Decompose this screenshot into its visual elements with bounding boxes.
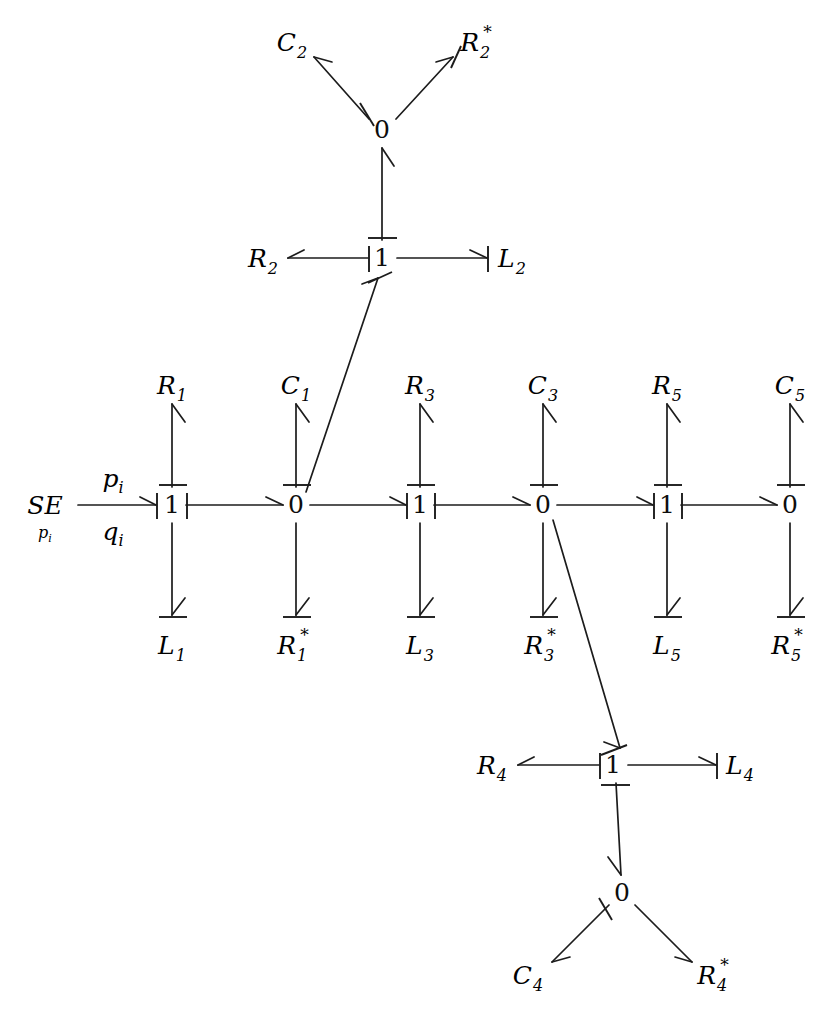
element-L3: L3 — [405, 631, 434, 665]
bond-one5-to-L5 — [654, 523, 682, 617]
element-L1: L1 — [157, 631, 186, 665]
bond-graph-canvas: 0 1 1 0 1 0 1 0 1 0 SE pi pi qi R1 C1 R3 — [0, 0, 821, 1025]
element-C5-text: C5 — [775, 371, 805, 405]
element-C1-text: C1 — [281, 371, 311, 405]
element-R4-star: R4* — [696, 955, 729, 995]
flow-label: qi — [102, 517, 123, 550]
bond-zero1-to-C1 — [283, 404, 311, 487]
element-C3: C3 — [528, 371, 558, 405]
bond-one2-to-R2 — [288, 246, 369, 272]
element-R4-text: R4 — [476, 751, 507, 785]
bond-label-flow: qi — [102, 517, 123, 550]
source-SE: SE pi — [27, 491, 62, 545]
bond-graph-diagram: 0 1 1 0 1 0 1 0 1 0 SE pi pi qi R1 C1 R3 — [0, 0, 821, 1025]
element-C2-text: C2 — [277, 28, 307, 62]
element-R3-text: R3 — [404, 371, 435, 405]
bond-one1-to-L1 — [159, 523, 187, 617]
junction-zero-3: 0 — [535, 490, 551, 519]
element-L4: L4 — [725, 751, 754, 785]
junction-zero-1: 0 — [288, 490, 304, 519]
element-R1-text: R1 — [156, 371, 187, 405]
junction-one-4: 1 — [605, 750, 621, 779]
element-R1-star: R1* — [276, 625, 309, 665]
element-R3: R3 — [404, 371, 435, 405]
bond-one5-to-R5 — [654, 404, 682, 487]
bond-one1-to-zero1 — [186, 493, 283, 519]
element-R5-star: R5* — [770, 625, 803, 665]
bond-one3-to-L3 — [407, 523, 435, 617]
element-C5: C5 — [775, 371, 805, 405]
element-R1star-text: R1* — [276, 625, 309, 665]
bond-one4-to-L4 — [628, 753, 717, 779]
bond-one2-to-L2 — [397, 246, 488, 272]
bond-label-effort: pi — [102, 464, 123, 497]
element-C3-text: C3 — [528, 371, 558, 405]
bond-zero1-to-R1star — [283, 523, 311, 617]
element-R5: R5 — [651, 371, 682, 405]
bond-one1-to-R1 — [159, 404, 187, 487]
element-L2: L2 — [497, 244, 526, 278]
bond-zero2-to-R2star — [396, 46, 461, 119]
bond-one2-to-zero2 — [368, 148, 397, 240]
element-C4: C4 — [513, 961, 543, 995]
bond-one5-to-zero5 — [681, 493, 777, 519]
element-R1: R1 — [156, 371, 187, 405]
element-L2-text: L2 — [497, 244, 526, 278]
junction-one-5: 1 — [659, 490, 675, 519]
bond-zero3-to-one4-diagonal — [553, 520, 627, 755]
junction-zero-4: 0 — [614, 878, 630, 907]
element-L3-text: L3 — [405, 631, 434, 665]
junction-one-1: 1 — [164, 490, 180, 519]
element-L5-text: L5 — [652, 631, 681, 665]
element-R5-text: R5 — [651, 371, 682, 405]
element-R2-text: R2 — [247, 244, 278, 278]
element-R5star-text: R5* — [770, 625, 803, 665]
bond-one4-to-zero4 — [601, 783, 630, 875]
element-R2star-text: R2* — [459, 22, 492, 62]
junction-zero-2: 0 — [374, 115, 390, 144]
source-SE-subscript: pi — [38, 523, 52, 545]
element-R2: R2 — [247, 244, 278, 278]
bond-zero3-to-C3 — [530, 404, 558, 487]
element-R3star-text: R3* — [523, 625, 556, 665]
junction-one-3: 1 — [412, 490, 428, 519]
element-C4-text: C4 — [513, 961, 543, 995]
junction-zero-5: 0 — [782, 490, 798, 519]
bond-zero1-to-one2-diagonal — [306, 272, 392, 492]
element-C2: C2 — [277, 28, 307, 62]
bond-zero3-to-R3star — [530, 523, 558, 617]
bond-one3-to-zero3 — [434, 493, 530, 519]
bond-zero1-to-one3 — [310, 493, 407, 519]
element-L4-text: L4 — [725, 751, 754, 785]
bond-zero5-to-C5 — [777, 404, 805, 487]
bond-zero4-to-C4 — [552, 898, 612, 962]
junction-one-2: 1 — [374, 243, 390, 272]
element-R3-star: R3* — [523, 625, 556, 665]
element-R4star-text: R4* — [696, 955, 729, 995]
bond-zero2-to-C2 — [314, 57, 374, 126]
bond-zero5-to-R5star — [777, 523, 805, 617]
bond-one3-to-R3 — [407, 404, 435, 487]
bond-one4-to-R4 — [518, 753, 600, 779]
element-R4: R4 — [476, 751, 507, 785]
element-R2-star: R2* — [459, 22, 492, 62]
source-SE-label: SE — [27, 491, 62, 520]
element-L5: L5 — [652, 631, 681, 665]
effort-label: pi — [102, 464, 123, 497]
element-L1-text: L1 — [157, 631, 186, 665]
element-C1: C1 — [281, 371, 311, 405]
bond-zero4-to-R4star — [635, 905, 692, 962]
bond-zero3-to-one5 — [557, 493, 654, 519]
